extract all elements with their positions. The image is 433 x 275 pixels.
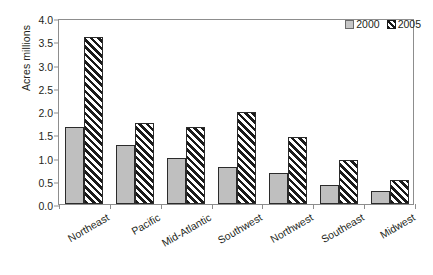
legend-entry-2005: 2005 [387,18,421,30]
bar-2005 [186,127,205,204]
bar-2005 [237,112,256,204]
bar-2005 [288,137,307,204]
bar-2000 [269,173,288,204]
legend-label-2005: 2005 [398,18,421,30]
x-axis-label: Pacific [129,211,162,237]
chart-legend: 2000 2005 [345,18,421,30]
legend-entry-2000: 2000 [345,18,379,30]
bar-2005 [135,123,154,204]
x-axis-label: Mid-Atlantic [160,211,214,249]
bars-layer [59,20,413,204]
legend-swatch-2000-icon [345,20,354,29]
bar-2005 [390,180,409,204]
x-axis-label: Southeast [319,211,366,245]
x-axis-label: Midwest [377,211,416,241]
bar-2005 [84,37,103,204]
plot-area: 0.00.51.01.52.02.53.03.54.0 [58,19,414,205]
bar-2005 [339,160,358,204]
x-axis-labels: NortheastPacificMid-AtlanticSouthwestNor… [58,205,414,275]
bar-group [65,20,103,204]
legend-label-2000: 2000 [356,18,379,30]
bar-group [218,20,256,204]
bar-2000 [167,158,186,204]
bar-chart: Acres millions 0.00.51.01.52.02.53.03.54… [0,0,433,275]
bar-group [371,20,409,204]
bar-2000 [116,145,135,204]
bar-2000 [218,167,237,204]
bar-group [320,20,358,204]
x-axis-label: Southwest [216,211,264,246]
bar-group [116,20,154,204]
legend-swatch-2005-icon [387,20,396,29]
bar-2000 [65,127,84,204]
bar-group [269,20,307,204]
x-axis-label: Northwest [268,211,315,245]
bar-2000 [320,185,339,204]
y-axis-title: Acres millions [20,0,32,118]
x-axis-label: Northeast [66,211,111,244]
bar-group [167,20,205,204]
bar-2000 [371,191,390,204]
x-tick-mark [415,204,416,209]
